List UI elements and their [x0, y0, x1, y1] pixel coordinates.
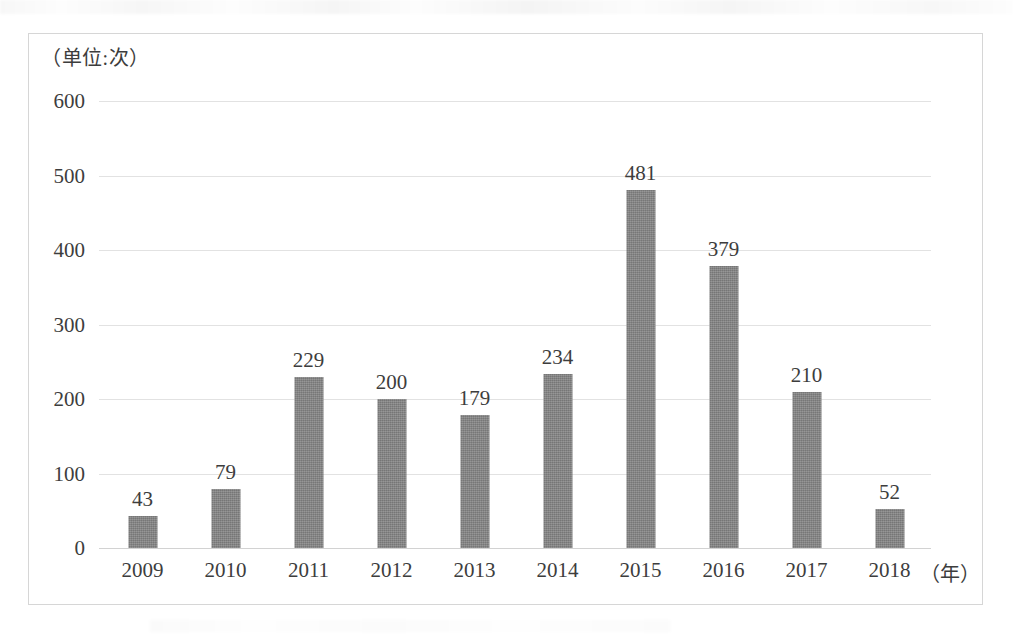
y-axis-tick-labels: 0100200300400500600 — [29, 34, 99, 606]
x-axis-tick-label: 2013 — [454, 558, 496, 583]
x-axis-tick-label: 2014 — [537, 558, 579, 583]
plot-area: 437922920017923448137921052 200920102011… — [99, 34, 931, 606]
y-axis-tick-label: 500 — [41, 163, 99, 188]
y-axis-tick-label: 600 — [41, 89, 99, 114]
x-axis-tick-label: 2009 — [122, 558, 164, 583]
x-tick-slot: 2009 — [101, 34, 184, 606]
x-tick-slot: 2015 — [599, 34, 682, 606]
x-tick-slot: 2011 — [267, 34, 350, 606]
x-tick-slot: 2017 — [765, 34, 848, 606]
scan-artifact-bottom-edge — [150, 620, 670, 632]
x-axis-unit-label: （年） — [920, 558, 980, 587]
y-axis-tick-label: 200 — [41, 387, 99, 412]
x-tick-slot: 2014 — [516, 34, 599, 606]
x-axis-tick-label: 2010 — [205, 558, 247, 583]
bar-chart: （单位:次） 0100200300400500600 4379229200179… — [28, 33, 983, 605]
x-tick-slot: 2018 — [848, 34, 931, 606]
x-tick-slot: 2016 — [682, 34, 765, 606]
y-axis-tick-label: 100 — [41, 461, 99, 486]
x-tick-slot: 2010 — [184, 34, 267, 606]
x-axis-tick-label: 2016 — [703, 558, 745, 583]
x-axis-tick-label: 2017 — [786, 558, 828, 583]
x-axis-tick-label: 2011 — [288, 558, 329, 583]
scan-artifact-top-edge — [0, 0, 1013, 14]
y-axis-tick-label: 0 — [41, 536, 99, 561]
x-axis-tick-label: 2015 — [620, 558, 662, 583]
x-tick-slot: 2012 — [350, 34, 433, 606]
y-axis-tick-label: 400 — [41, 238, 99, 263]
x-tick-slot: 2013 — [433, 34, 516, 606]
x-axis-tick-label: 2018 — [869, 558, 911, 583]
x-axis-tick-label: 2012 — [371, 558, 413, 583]
y-axis-tick-label: 300 — [41, 312, 99, 337]
